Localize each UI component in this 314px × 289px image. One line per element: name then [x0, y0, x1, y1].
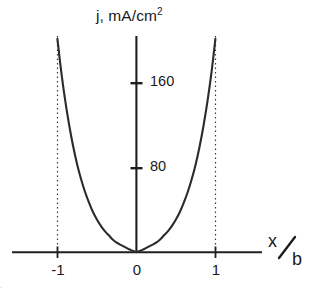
chart-figure: j, mA/cm2 160 80 -1 0 1 x b . — [0, 0, 314, 289]
x-axis-title-denominator: b — [292, 250, 302, 268]
x-tick-label-zero: 0 — [126, 262, 148, 277]
chart-title: j, mA/cm2 — [96, 8, 163, 24]
x-tick-label-minus1: -1 — [47, 262, 69, 277]
x-tick-label-plus1: 1 — [205, 262, 227, 277]
plot-canvas — [0, 0, 314, 289]
chart-title-main: j, mA/cm — [96, 7, 157, 24]
y-tick-label-160: 160 — [150, 74, 174, 89]
y-tick-label-80: 80 — [150, 159, 166, 174]
caption-remnant: . — [0, 281, 314, 289]
chart-title-superscript: 2 — [157, 6, 163, 17]
x-axis-title: x b — [268, 232, 314, 278]
fraction-slash-icon — [268, 232, 314, 278]
